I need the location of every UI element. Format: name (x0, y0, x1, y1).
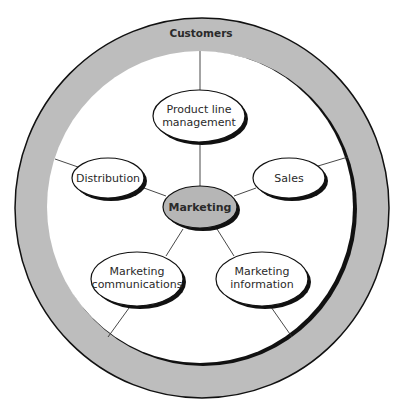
marketing-center-label: Marketing (168, 201, 231, 214)
marketing-information-label-1: Marketing (235, 265, 290, 278)
marketing-communications-label-1: Marketing (110, 265, 165, 278)
distribution-label: Distribution (76, 172, 140, 185)
product-line-management-label-2: management (162, 116, 236, 129)
marketing-information-label-2: information (230, 278, 294, 291)
product-line-management-label-1: Product line (166, 103, 231, 116)
marketing-communications-label-2: communications (92, 278, 183, 291)
marketing-diagram: Customers Product line management Distri… (0, 0, 403, 407)
customers-label: Customers (169, 27, 232, 39)
sales-label: Sales (274, 172, 304, 185)
